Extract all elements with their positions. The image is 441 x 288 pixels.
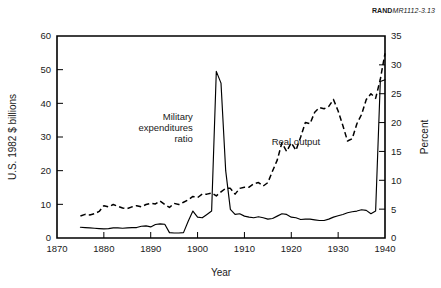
x-ticklabel: 1880	[93, 243, 114, 254]
x-ticklabel: 1900	[187, 243, 208, 254]
y-ticklabel-right: 10	[391, 175, 402, 186]
annotation-line: expenditures	[138, 122, 193, 133]
tick-labels: 0102030405060051015202530351870188018901…	[40, 30, 401, 254]
y-ticklabel-right: 15	[391, 146, 402, 157]
series-line-military-expenditures-ratio	[80, 71, 385, 233]
x-ticklabel: 1870	[46, 243, 67, 254]
y-ticklabel-right: 30	[391, 59, 402, 70]
y-ticklabel-right: 20	[391, 117, 402, 128]
axes-group	[57, 36, 385, 238]
y-ticklabel-left: 0	[46, 232, 51, 243]
annotation-line: Military	[163, 111, 193, 122]
x-ticklabel: 1930	[328, 243, 349, 254]
x-ticklabel: 1890	[140, 243, 161, 254]
y-ticklabel-left: 60	[40, 30, 51, 41]
series-group	[80, 53, 385, 233]
plot-area: 0102030405060051015202530351870188018901…	[7, 30, 430, 278]
x-ticklabel: 1920	[281, 243, 302, 254]
y-ticklabel-right: 25	[391, 88, 402, 99]
y-ticklabel-left: 20	[40, 165, 51, 176]
x-ticklabel: 1910	[234, 243, 255, 254]
data-annotations: MilitaryexpendituresratioReal output	[138, 111, 320, 147]
annotation-line: Real output	[272, 136, 321, 147]
axis-titles: U.S. 1982 $ billionsPercentYear	[7, 94, 430, 278]
y-axis-title-right: Percent	[419, 120, 430, 155]
y-axis-title-left: U.S. 1982 $ billions	[7, 94, 18, 180]
y-ticklabel-left: 10	[40, 199, 51, 210]
y-ticklabel-right: 5	[391, 204, 396, 215]
y-ticklabel-right: 0	[391, 232, 396, 243]
x-ticklabel: 1940	[374, 243, 395, 254]
series-annotation: Militaryexpendituresratio	[138, 111, 193, 144]
series-annotation: Real output	[272, 136, 321, 147]
chart-figure: 0102030405060051015202530351870188018901…	[0, 0, 441, 288]
x-axis-title: Year	[211, 267, 232, 278]
y-ticklabel-left: 40	[40, 98, 51, 109]
y-ticklabel-left: 50	[40, 64, 51, 75]
plot-frame	[57, 36, 385, 238]
series-line-real-output	[80, 53, 385, 216]
y-ticklabel-right: 35	[391, 30, 402, 41]
annotation-line: ratio	[174, 133, 192, 144]
y-ticklabel-left: 30	[40, 131, 51, 142]
